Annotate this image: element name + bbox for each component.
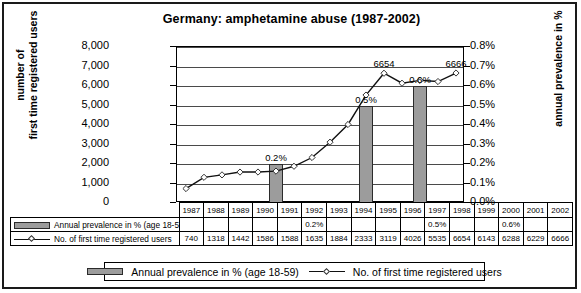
y-tick-left: 1,000 (49, 176, 109, 188)
bar-label-1992: 0.2% (253, 152, 299, 163)
prevalence-cell-1988 (204, 218, 229, 232)
year-cell-2000: 2000 (499, 203, 524, 218)
users-cell-1989: 1442 (228, 232, 253, 246)
y-tick-right: 0.1% (470, 176, 518, 188)
prevalence-cell-1995 (376, 218, 401, 232)
year-cell-1989: 1989 (228, 203, 253, 218)
y-tick-left: 5,000 (49, 98, 109, 110)
year-cell-1992: 1992 (302, 203, 327, 218)
year-cell-1996: 1996 (400, 203, 425, 218)
prevalence-row-label: Annual prevalence in % (age 18-59) (11, 218, 180, 232)
prevalence-cell-1992: 0.2% (302, 218, 327, 232)
line-series (177, 47, 465, 203)
y-axis-left-label-line1: number of (14, 49, 26, 100)
users-cell-1991: 1588 (277, 232, 302, 246)
prevalence-cell-1989 (228, 218, 253, 232)
bar-swatch-icon (87, 268, 123, 275)
y-axis-right-label: annual prevalence in % (552, 0, 565, 154)
users-cell-1988: 1318 (204, 232, 229, 246)
legend-item-users: No. of first time registered users (309, 266, 502, 278)
prevalence-cell-1990 (253, 218, 278, 232)
y-tick-right: 0.2% (470, 156, 518, 168)
users-cell-2000: 6288 (499, 232, 524, 246)
legend-label-users: No. of first time registered users (353, 266, 502, 278)
prevalence-cell-1993 (327, 218, 352, 232)
point-label-2002: 6666 (433, 58, 479, 69)
users-cell-1997: 5535 (425, 232, 450, 246)
y-axis-left-label-line2: first time registered users (27, 11, 39, 140)
page-title: Germany: amphetamine abuse (1987-2002) (4, 12, 579, 26)
y-tick-right: 0.3% (470, 137, 518, 149)
y-tick-right: 0.8% (470, 39, 518, 51)
prevalence-row: Annual prevalence in % (age 18-59)0.2%0.… (11, 218, 573, 232)
users-cell-1995: 3119 (376, 232, 401, 246)
prevalence-cell-1991 (277, 218, 302, 232)
users-row-label: No. of first time registered users (11, 232, 180, 246)
users-cell-1993: 1884 (327, 232, 352, 246)
bar-label-2000: 0.6% (397, 74, 443, 85)
line-marker-icon (14, 235, 50, 243)
year-cell-1991: 1991 (277, 203, 302, 218)
chart-screenshot: Germany: amphetamine abuse (1987-2002) n… (0, 0, 581, 293)
y-tick-right: 0.5% (470, 98, 518, 110)
point-label-1998: 6654 (361, 58, 407, 69)
line-marker-icon (309, 268, 345, 276)
users-cell-1996: 4026 (400, 232, 425, 246)
year-row-label-spacer (11, 203, 180, 218)
prevalence-cell-2001 (523, 218, 548, 232)
users-cell-1998: 6654 (450, 232, 475, 246)
users-cell-1992: 1635 (302, 232, 327, 246)
line-marker-1992 (273, 168, 279, 174)
prevalence-cell-1998 (450, 218, 475, 232)
year-cell-1990: 1990 (253, 203, 278, 218)
line-marker-1991 (255, 169, 261, 175)
prevalence-cell-2000: 0.6% (499, 218, 524, 232)
plot-area: 0.2%0.5%0.6% 66546666 (176, 46, 464, 202)
year-row: 1987198819891990199119921993199419951996… (11, 203, 573, 218)
line-marker-1990 (237, 169, 243, 175)
y-tick-right: 0.6% (470, 78, 518, 90)
y-tick-left: 3,000 (49, 137, 109, 149)
year-cell-1999: 1999 (474, 203, 499, 218)
line-path (186, 73, 456, 189)
prevalence-cell-1996 (400, 218, 425, 232)
line-marker-1993 (291, 163, 297, 169)
y-axis-left-label: number of first time registered users (14, 0, 40, 160)
year-cell-1988: 1988 (204, 203, 229, 218)
users-cell-2002: 6666 (548, 232, 573, 246)
year-cell-2001: 2001 (523, 203, 548, 218)
year-cell-1994: 1994 (351, 203, 376, 218)
bar-swatch-icon (14, 222, 50, 229)
line-marker-2002 (453, 70, 459, 76)
prevalence-cell-1997: 0.5% (425, 218, 450, 232)
year-cell-2002: 2002 (548, 203, 573, 218)
y-tick-left: 8,000 (49, 39, 109, 51)
year-cell-1987: 1987 (179, 203, 204, 218)
y-tick-left: 7,000 (49, 59, 109, 71)
prevalence-cell-1987 (179, 218, 204, 232)
prevalence-cell-1999 (474, 218, 499, 232)
users-row: No. of first time registered users740131… (11, 232, 573, 246)
year-cell-1993: 1993 (327, 203, 352, 218)
users-cell-1987: 740 (179, 232, 204, 246)
y-tick-left: 4,000 (49, 117, 109, 129)
prevalence-cell-2002 (548, 218, 573, 232)
y-tick-right: 0.4% (470, 117, 518, 129)
legend-label-prevalence: Annual prevalence in % (age 18-59) (131, 266, 299, 278)
year-cell-1998: 1998 (450, 203, 475, 218)
year-cell-1995: 1995 (376, 203, 401, 218)
line-marker-1989 (219, 172, 225, 178)
y-tick-left: 6,000 (49, 78, 109, 90)
users-row-label: No. of first time registered users (54, 234, 172, 244)
chart-frame: Germany: amphetamine abuse (1987-2002) n… (2, 2, 577, 289)
prevalence-cell-1994 (351, 218, 376, 232)
legend-item-prevalence: Annual prevalence in % (age 18-59) (87, 266, 299, 278)
prevalence-row-label: Annual prevalence in % (age 18-59) (54, 220, 179, 230)
year-cell-1997: 1997 (425, 203, 450, 218)
users-cell-2001: 6229 (523, 232, 548, 246)
users-cell-1994: 2333 (351, 232, 376, 246)
users-cell-1990: 1586 (253, 232, 278, 246)
bar-label-1997: 0.5% (343, 94, 389, 105)
data-table: 1987198819891990199119921993199419951996… (10, 202, 573, 246)
chart-legend: Annual prevalence in % (age 18-59) No. o… (104, 262, 485, 281)
